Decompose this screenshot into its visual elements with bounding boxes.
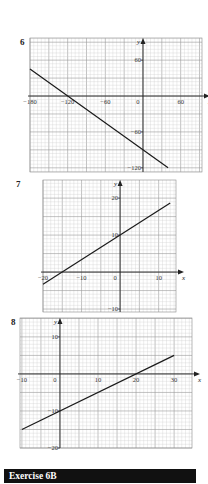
grid [20, 318, 192, 448]
exercise-section-banner: Exercise 6B [4, 469, 196, 483]
y-axis-arrow-icon [57, 318, 62, 324]
graph-8: xy−10010203010−10−20 [0, 0, 208, 484]
x-tick-label: −10 [17, 376, 27, 383]
y-tick-label: 10 [51, 333, 58, 340]
x-tick-label: 20 [133, 376, 140, 383]
x-axis-label: x [197, 376, 202, 384]
y-tick-label: −20 [48, 444, 58, 451]
x-tick-label: 10 [95, 376, 102, 383]
x-tick-label: 30 [171, 376, 178, 383]
x-tick-label: 0 [53, 376, 56, 383]
